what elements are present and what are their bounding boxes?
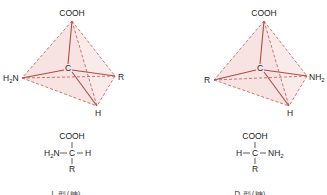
right-tetrahedron: COOH C R NH2 H — [204, 8, 325, 118]
right-bottom-label: H — [287, 108, 293, 118]
left-right-label: R — [118, 72, 124, 82]
right-right-label: NH2 — [309, 72, 325, 83]
right-fischer-center: C — [252, 148, 258, 158]
amino-acid-stereoisomer-diagram: COOH C H2N R H COOH C R NH2 H COOH — [0, 0, 327, 195]
left-left-label: H2N — [3, 73, 19, 84]
left-fischer-projection: COOH H2N C H R — [44, 131, 91, 174]
left-top-label: COOH — [59, 8, 85, 18]
left-tetrahedron: COOH C H2N R H — [3, 8, 124, 118]
right-center-label: C — [257, 63, 263, 73]
left-fischer-top: COOH — [59, 131, 85, 141]
right-fischer-top: COOH — [242, 131, 268, 141]
left-caption: L-型(糖) — [51, 190, 80, 195]
right-fischer-right: NH2 — [268, 148, 284, 159]
right-top-label: COOH — [251, 8, 277, 18]
left-bottom-label: H — [95, 108, 101, 118]
right-caption: D-型(糖) — [234, 190, 265, 195]
left-fischer-center: C — [69, 148, 75, 158]
right-fischer-left: H — [236, 148, 242, 158]
right-fischer-bottom: R — [252, 164, 258, 174]
left-center-label: C — [65, 63, 71, 73]
left-fischer-right: H — [85, 148, 91, 158]
left-fischer-left: H2N — [44, 148, 60, 159]
right-fischer-projection: COOH H C NH2 R — [236, 131, 284, 174]
left-fischer-bottom: R — [69, 164, 75, 174]
right-left-label: R — [204, 75, 210, 85]
